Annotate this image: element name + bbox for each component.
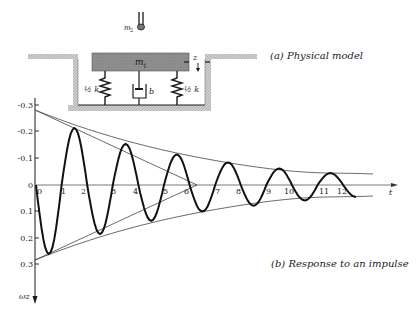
y-tick-label: 0.1 [20, 207, 33, 216]
y-axis: -0.3 -0.2 -0.1 0 0.1 0.2 0.3 ωz [18, 98, 39, 304]
x-mark-label: 8 [236, 187, 241, 196]
response-plot: -0.3 -0.2 -0.1 0 0.1 0.2 0.3 ωz t 0 1 2 … [18, 98, 409, 304]
x-mark-label: 11 [319, 187, 329, 196]
y-tick-label: -0.2 [18, 127, 33, 136]
x-mark-label: 9 [266, 187, 271, 196]
y-tick-label: -0.3 [18, 101, 33, 110]
displacement-arrow: z [192, 53, 200, 72]
caption-a: (a) Physical model [270, 50, 363, 61]
mass-m2: m 2 [124, 12, 145, 33]
y-tick-label: -0.1 [18, 154, 33, 163]
caption-b: (b) Response to an impulse [271, 258, 409, 269]
x-mark-label: 2 [81, 187, 86, 196]
displacement-label: z [192, 53, 198, 62]
y-tick-label: 0 [28, 181, 33, 190]
damper-label: b [149, 87, 154, 96]
spring-right-label: ½ k [184, 85, 199, 94]
x-axis-label: t [389, 188, 393, 197]
lower-envelope [35, 196, 373, 260]
x-mark-label: 6 [184, 187, 189, 196]
y-tick-label: 0.3 [20, 260, 33, 269]
y-axis-arrow-icon [33, 296, 38, 304]
mass1-subscript: 1 [143, 62, 147, 69]
mass2-subscript: 2 [130, 27, 133, 33]
figure: m 1 z m 2 ½ k b [0, 0, 416, 319]
damper: b [133, 71, 154, 105]
upper-envelope [35, 110, 373, 174]
spring-right: ½ k [172, 71, 199, 105]
spring-left: ½ k [84, 71, 110, 105]
x-mark-label: 7 [215, 187, 220, 196]
physical-model: m 1 z m 2 ½ k b [28, 12, 363, 111]
x-mark-label: 4 [133, 187, 138, 196]
x-axis-arrow-icon [391, 183, 398, 187]
y-axis-label: ωz [19, 292, 31, 301]
y-tick-label: 0.2 [20, 234, 33, 243]
spring-left-label: ½ k [84, 85, 99, 94]
